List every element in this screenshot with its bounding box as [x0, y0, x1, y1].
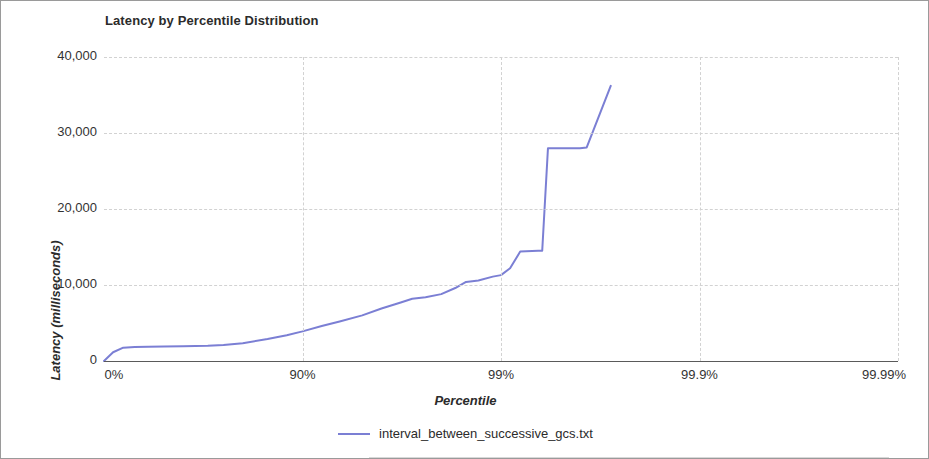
x-gridline: [501, 57, 502, 361]
y-axis-tick-label: 20,000: [27, 200, 97, 215]
y-axis-tick-label: 10,000: [27, 276, 97, 291]
x-axis-title: Percentile: [1, 393, 929, 408]
x-axis-tick-label: 99.9%: [681, 367, 718, 382]
x-axis-tick-label: 90%: [289, 367, 315, 382]
plot-top-gridline: [104, 57, 898, 58]
x-gridline: [303, 57, 304, 361]
chart-title: Latency by Percentile Distribution: [105, 13, 319, 28]
plot-area: [104, 57, 898, 361]
y-axis-tick-label: 30,000: [27, 124, 97, 139]
legend-label: interval_between_successive_gcs.txt: [379, 426, 593, 441]
x-axis-tick-label: 99.99%: [862, 367, 906, 382]
bottom-divider: [369, 457, 889, 458]
chart-legend: interval_between_successive_gcs.txt: [1, 426, 929, 441]
x-axis-line: [104, 361, 898, 362]
chart-frame: Latency by Percentile Distribution Laten…: [0, 0, 929, 459]
x-axis-tick-label: 99%: [488, 367, 514, 382]
y-axis-tick-labels: 010,00020,00030,00040,000: [23, 1, 97, 459]
y-axis-tick-label: 40,000: [27, 48, 97, 63]
y-axis-tick-label: 0: [27, 352, 97, 367]
x-axis-tick-label: 0%: [105, 367, 124, 382]
x-gridline: [898, 57, 899, 361]
legend-color-swatch: [338, 433, 370, 435]
x-gridline: [700, 57, 701, 361]
